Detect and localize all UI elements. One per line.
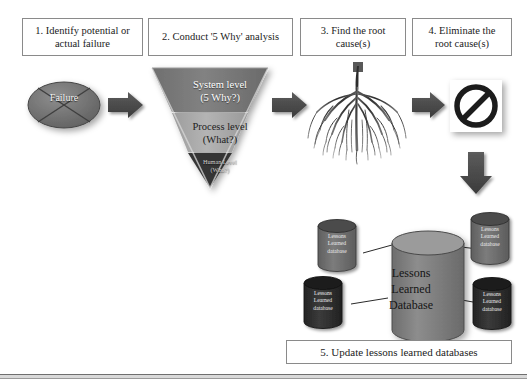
satellite-top-right-line-1: Lessons: [467, 226, 513, 233]
satellite-bottom-left-line-3: database: [300, 305, 346, 312]
prohibition-sign-graphic: [450, 80, 502, 132]
funnel-system-level-line-2: (5 Why?): [160, 92, 280, 105]
satellite-bottom-left-line-2: Learned: [300, 297, 346, 304]
diagram-graphics-layer: [0, 0, 527, 388]
step-box-1[interactable]: 1. Identify potential or actual failure: [22, 18, 143, 56]
failure-label: Failure: [29, 92, 99, 103]
failure-pie-graphic: [28, 82, 100, 128]
satellite-bottom-right-line-3: database: [469, 306, 515, 313]
tree-roots-icon: [308, 62, 406, 164]
main-database-line-2: Learned: [363, 282, 459, 298]
main-database-label: Lessons Learned Database: [363, 266, 459, 313]
funnel-process-level-line-2: (What?): [160, 134, 280, 147]
step-4-line-2: root cause(s): [429, 37, 496, 50]
arrow-right-1: [108, 92, 143, 118]
step-box-5-caption[interactable]: 5. Update lessons learned databases: [286, 340, 512, 364]
step-box-4[interactable]: 4. Eliminate the root cause(s): [412, 18, 512, 56]
funnel-human-level-label: Human Level (Who?): [170, 158, 270, 174]
step-1-line-2: actual failure: [35, 37, 129, 50]
arrow-down-1: [460, 152, 492, 194]
step-box-2[interactable]: 2. Conduct '5 Why' analysis: [148, 18, 293, 56]
satellite-bottom-right-line-2: Learned: [469, 298, 515, 305]
step-4-line-1: 4. Eliminate the: [429, 24, 496, 37]
funnel-human-level-line-2: (Who?): [170, 166, 270, 174]
step-box-3[interactable]: 3. Find the root cause(s): [300, 18, 406, 56]
diagram-canvas: 1. Identify potential or actual failure …: [0, 0, 527, 388]
step-1-line-1: 1. Identify potential or: [35, 24, 129, 37]
bottom-divider: [0, 374, 527, 379]
funnel-process-level-line-1: Process level: [160, 121, 280, 134]
step-3-line-1: 3. Find the root: [321, 24, 386, 37]
satellite-label-bottom-left: Lessons Learned database: [300, 290, 346, 312]
satellite-label-top-right: Lessons Learned database: [467, 226, 513, 248]
satellite-bottom-right-line-1: Lessons: [469, 291, 515, 298]
satellite-bottom-left-line-1: Lessons: [300, 290, 346, 297]
satellite-label-bottom-right: Lessons Learned database: [469, 291, 515, 313]
satellite-top-left-line-3: database: [314, 248, 360, 255]
step-5-label: 5. Update lessons learned databases: [320, 346, 477, 358]
satellite-top-right-line-3: database: [467, 241, 513, 248]
funnel-system-level-label: System level (5 Why?): [160, 79, 280, 105]
funnel-system-level-line-1: System level: [160, 79, 280, 92]
satellite-top-left-line-2: Learned: [314, 240, 360, 247]
main-database-line-3: Database: [363, 298, 459, 314]
main-database-line-1: Lessons: [363, 266, 459, 282]
step-3-line-2: cause(s): [321, 37, 386, 50]
step-2-line-1: 2. Conduct '5 Why' analysis: [162, 30, 279, 43]
funnel-human-level-line-1: Human Level: [170, 158, 270, 166]
satellite-top-right-line-2: Learned: [467, 233, 513, 240]
satellite-top-left-line-1: Lessons: [314, 233, 360, 240]
arrow-right-3: [412, 92, 445, 118]
funnel-process-level-label: Process level (What?): [160, 121, 280, 147]
satellite-label-top-left: Lessons Learned database: [314, 233, 360, 255]
